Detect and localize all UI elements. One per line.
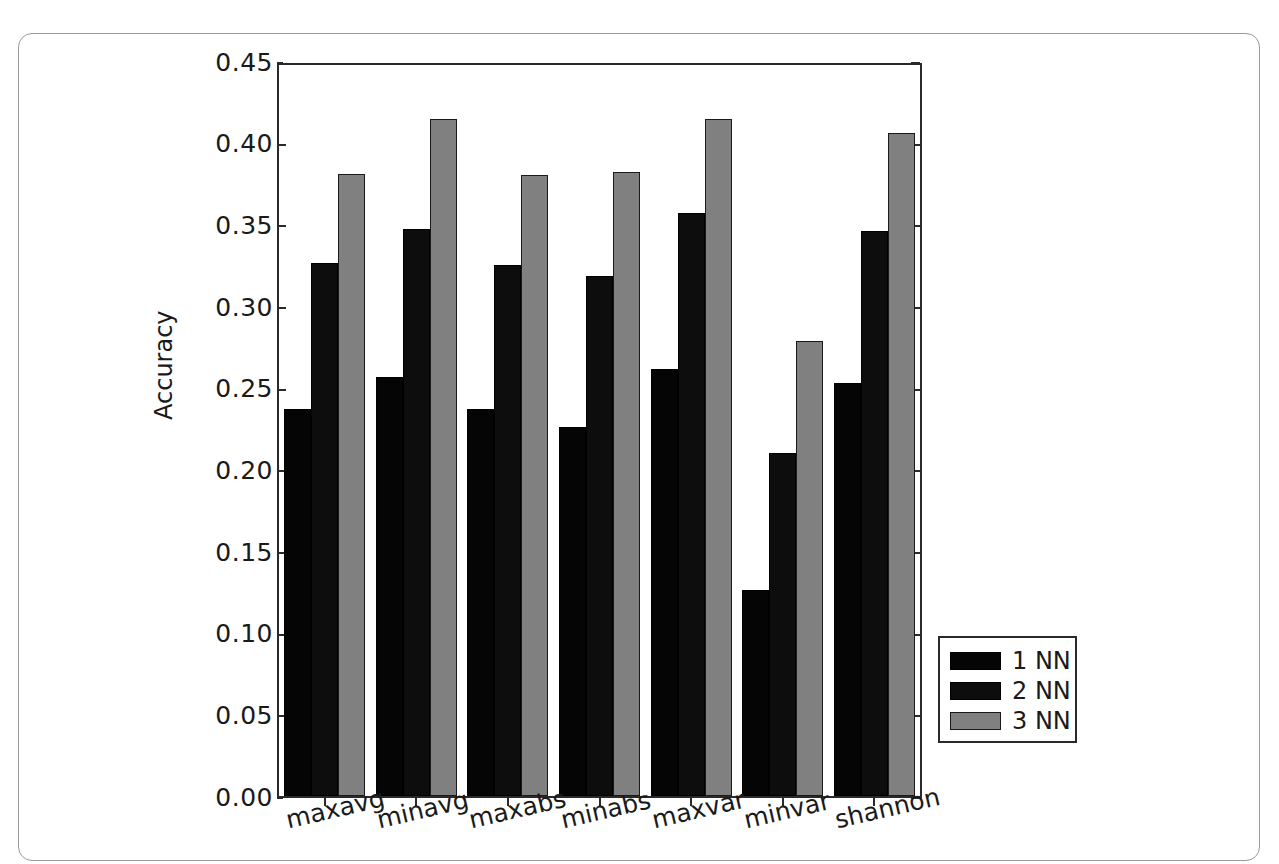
bar <box>705 119 732 796</box>
legend-item: 3 NN <box>940 706 1075 736</box>
bar <box>284 409 311 796</box>
bar-group <box>462 65 554 796</box>
y-axis-tick-text: 0.40 <box>215 129 285 158</box>
legend-label: 2 NN <box>1012 677 1071 705</box>
bar <box>338 174 365 796</box>
bar-group <box>279 65 371 796</box>
bar-group <box>645 65 737 796</box>
bar <box>559 427 586 796</box>
y-axis-tick-text: 0.30 <box>215 293 285 322</box>
bar <box>834 383 861 796</box>
y-axis-tick-text: 0.10 <box>215 619 285 648</box>
legend-item: 1 NN <box>940 646 1075 676</box>
bar <box>403 229 430 796</box>
bars-layer <box>279 65 920 796</box>
y-axis-tick-mark <box>277 62 283 64</box>
bar <box>467 409 494 796</box>
bar <box>742 590 769 796</box>
bar <box>311 263 338 796</box>
y-axis-tick-text: 0.00 <box>215 783 285 812</box>
bar <box>769 453 796 796</box>
bar-group <box>371 65 463 796</box>
bar <box>651 369 678 796</box>
legend-swatch <box>950 682 1001 700</box>
y-axis: 0.000.050.100.150.200.250.300.350.400.45 <box>0 0 277 864</box>
y-axis-tick-mark <box>277 797 283 799</box>
bar <box>430 119 457 796</box>
legend-item: 2 NN <box>940 676 1075 706</box>
y-axis-tick-text: 0.20 <box>215 456 285 485</box>
bar <box>494 265 521 796</box>
y-axis-tick-mark-right <box>911 62 920 64</box>
y-axis-tick-text: 0.15 <box>215 538 285 567</box>
y-axis-tick-text: 0.05 <box>215 701 285 730</box>
legend-label: 1 NN <box>1012 647 1071 675</box>
bar <box>376 377 403 796</box>
bar-chart: Accuracy 0.000.050.100.150.200.250.300.3… <box>0 0 1279 864</box>
bar <box>678 213 705 796</box>
bar <box>861 231 888 796</box>
bar <box>521 175 548 796</box>
bar <box>586 276 613 796</box>
bar <box>613 172 640 796</box>
y-axis-tick-text: 0.25 <box>215 374 285 403</box>
legend: 1 NN2 NN3 NN <box>938 636 1077 743</box>
bar-group <box>554 65 646 796</box>
bar-group <box>828 65 920 796</box>
bar-group <box>737 65 829 796</box>
y-axis-tick-text: 0.45 <box>215 48 285 77</box>
legend-label: 3 NN <box>1012 707 1071 735</box>
legend-swatch <box>950 712 1001 730</box>
bar <box>796 341 823 796</box>
y-axis-tick-text: 0.35 <box>215 211 285 240</box>
legend-swatch <box>950 652 1001 670</box>
bar <box>888 133 915 796</box>
